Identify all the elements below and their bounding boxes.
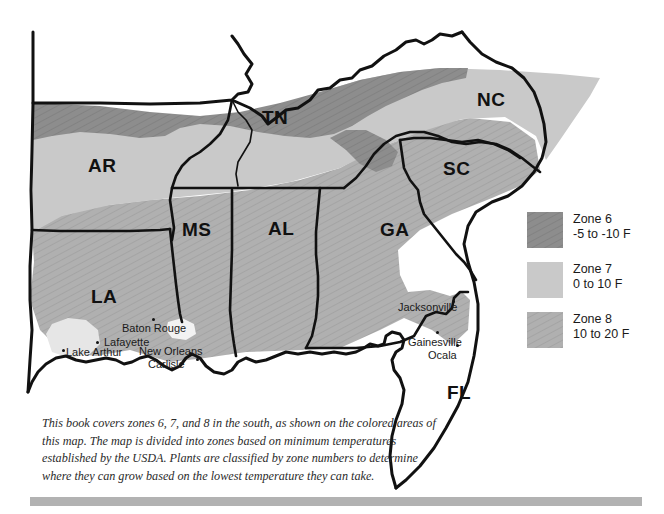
legend-text-zone6: Zone 6 -5 to -10 F <box>573 212 631 242</box>
legend-text-zone7: Zone 7 0 to 10 F <box>573 262 622 292</box>
city-label-lake-arthur: Lake Arthur <box>66 346 122 358</box>
legend-zone8-title: Zone 8 <box>573 312 629 327</box>
city-label-carlisle: Carlisle <box>148 358 185 370</box>
zone6-swatch-icon <box>527 212 563 248</box>
state-label-nc: NC <box>477 89 505 111</box>
city-dot-carlisle <box>196 358 199 361</box>
legend-zone6-range: -5 to -10 F <box>573 227 631 242</box>
bottom-divider-rule <box>30 497 642 506</box>
zone-legend: Zone 6 -5 to -10 F Zone 7 0 to 10 F Zone… <box>527 212 659 362</box>
state-label-ar: AR <box>88 155 116 177</box>
city-dot-ocala <box>456 344 459 347</box>
state-label-al: AL <box>268 218 294 240</box>
legend-zone7-title: Zone 7 <box>573 262 622 277</box>
city-label-gainesville: Gainesville <box>408 336 462 348</box>
legend-text-zone8: Zone 8 10 to 20 F <box>573 312 629 342</box>
city-label-jacksonville: Jacksonville <box>398 301 457 313</box>
legend-row-zone8: Zone 8 10 to 20 F <box>527 312 659 348</box>
legend-zone7-range: 0 to 10 F <box>573 277 622 292</box>
state-label-sc: SC <box>443 158 470 180</box>
city-dot-gainesville <box>436 331 439 334</box>
legend-zone6-title: Zone 6 <box>573 212 631 227</box>
legend-zone8-range: 10 to 20 F <box>573 327 629 342</box>
city-label-baton-rouge: Baton Rouge <box>122 322 186 334</box>
map-caption: This book covers zones 6, 7, and 8 in th… <box>42 415 442 485</box>
legend-row-zone7: Zone 7 0 to 10 F <box>527 262 659 298</box>
state-label-fl: FL <box>447 382 471 404</box>
city-label-new-orleans: New Orleans <box>139 345 203 357</box>
state-label-tn: TN <box>262 107 288 129</box>
zone8-swatch-icon <box>527 312 563 348</box>
zone7-swatch-icon <box>527 262 563 298</box>
state-label-la: LA <box>91 286 117 308</box>
western-border <box>28 103 33 392</box>
state-label-ga: GA <box>380 219 410 241</box>
city-label-ocala: Ocala <box>428 349 457 361</box>
state-label-ms: MS <box>182 219 212 241</box>
city-dot-lake-arthur <box>62 349 65 352</box>
city-dot-lafayette <box>96 341 99 344</box>
city-dot-baton-rouge <box>152 318 155 321</box>
hardiness-zone-map-figure: AR TN NC SC MS AL GA LA FL Baton Rouge L… <box>0 0 664 514</box>
legend-row-zone6: Zone 6 -5 to -10 F <box>527 212 659 248</box>
